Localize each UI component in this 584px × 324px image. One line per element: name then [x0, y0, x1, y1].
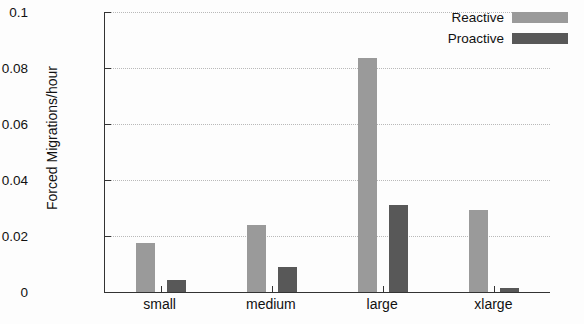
- x-axis-tick-label: xlarge: [474, 296, 512, 312]
- y-axis-title: Forced Migrations/hour: [44, 8, 60, 268]
- bar-chart: Forced Migrations/hour 00.020.040.060.08…: [0, 0, 584, 324]
- x-axis-tick-mark: [161, 286, 162, 292]
- plot-area: [104, 12, 550, 293]
- y-axis-tick-label: 0: [0, 285, 28, 300]
- legend-label: Reactive: [451, 10, 504, 25]
- bar-reactive-xlarge: [469, 210, 488, 292]
- bar-proactive-xlarge: [500, 288, 519, 292]
- bar-proactive-small: [167, 280, 186, 292]
- legend: ReactiveProactive: [444, 8, 572, 48]
- legend-swatch: [512, 12, 568, 23]
- x-axis-tick-label: small: [143, 296, 176, 312]
- y-axis-tick-label: 0.02: [0, 229, 28, 244]
- x-axis-tick-mark: [494, 286, 495, 292]
- bar-reactive-large: [358, 58, 377, 292]
- bar-group: [328, 12, 439, 292]
- y-axis-tick-label: 0.08: [0, 61, 28, 76]
- bar-group: [216, 12, 327, 292]
- legend-label: Proactive: [448, 31, 504, 46]
- bar-proactive-large: [389, 205, 408, 292]
- x-axis-tick-label: medium: [246, 296, 296, 312]
- x-axis-tick-label: large: [367, 296, 398, 312]
- bar-proactive-medium: [278, 267, 297, 292]
- legend-item: Proactive: [448, 31, 568, 46]
- y-axis-tick-label: 0.04: [0, 173, 28, 188]
- bar-reactive-medium: [247, 225, 266, 292]
- bar-group: [105, 12, 216, 292]
- bar-reactive-small: [136, 243, 155, 292]
- y-axis-tick-mark: [105, 292, 111, 293]
- x-axis-tick-mark: [272, 286, 273, 292]
- legend-swatch: [512, 33, 568, 44]
- x-axis-tick-mark: [383, 286, 384, 292]
- y-axis-tick-label: 0.1: [0, 5, 28, 20]
- legend-item: Reactive: [448, 10, 568, 25]
- bar-group: [439, 12, 550, 292]
- y-axis-tick-label: 0.06: [0, 117, 28, 132]
